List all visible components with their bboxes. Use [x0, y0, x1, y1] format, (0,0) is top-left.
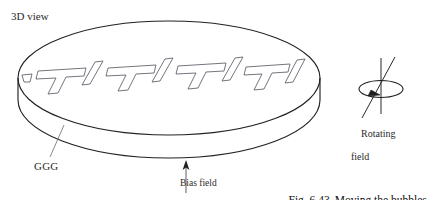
- caption-number: Fig. 6.43: [289, 194, 330, 200]
- caption-text: Moving the bubbles: [335, 194, 427, 200]
- rotation-axis-tilted: [362, 57, 395, 118]
- rotating-field-label-line2: field: [351, 151, 395, 162]
- rotating-field-label-line1: Rotating: [361, 128, 395, 139]
- figure-container: 3D view: [0, 0, 435, 200]
- bias-field-label: Bias field: [180, 178, 217, 189]
- pattern-unit: [22, 74, 32, 82]
- rotating-field-icon: [359, 57, 403, 118]
- rotating-field-label: Rotating field: [351, 117, 395, 184]
- ggg-disk: [18, 21, 320, 158]
- rotation-arrowhead: [368, 90, 380, 96]
- t-bar: [22, 74, 32, 82]
- figure-caption: Fig. 6.43Moving the bubbles: [277, 181, 427, 200]
- ggg-label: GGG: [34, 160, 58, 172]
